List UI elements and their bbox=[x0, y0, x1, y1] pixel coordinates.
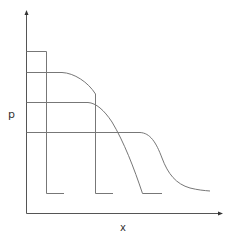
curve-level-4 bbox=[27, 133, 211, 192]
x-axis-label: x bbox=[120, 222, 126, 233]
y-axis-label: p bbox=[8, 108, 15, 121]
pressure-profile-diagram bbox=[0, 0, 229, 241]
x-axis-arrow-icon bbox=[218, 212, 223, 216]
axes bbox=[27, 14, 220, 214]
y-axis-arrow-icon bbox=[25, 10, 29, 15]
